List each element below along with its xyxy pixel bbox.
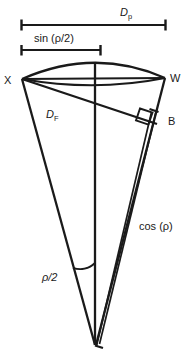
- df-label-main: D: [46, 108, 54, 120]
- sin-half-rho-label: sin (ρ/2): [34, 32, 74, 44]
- geometry-diagram: D p sin (ρ/2) X W B D F cos (ρ) ρ/2: [0, 0, 190, 359]
- vertex-w-label: W: [170, 72, 181, 84]
- rho-half-label: ρ/2: [41, 271, 57, 283]
- vertex-x-label: X: [4, 74, 12, 86]
- df-label-subscript: F: [54, 114, 59, 123]
- dp-label-subscript: p: [128, 12, 132, 21]
- top-chord-xw: [22, 78, 165, 79]
- cos-rho-label: cos (ρ): [139, 220, 173, 232]
- diagram-canvas: D p sin (ρ/2) X W B D F cos (ρ) ρ/2: [0, 0, 190, 359]
- dp-label-main: D: [120, 6, 128, 18]
- vertex-b-label: B: [168, 115, 175, 127]
